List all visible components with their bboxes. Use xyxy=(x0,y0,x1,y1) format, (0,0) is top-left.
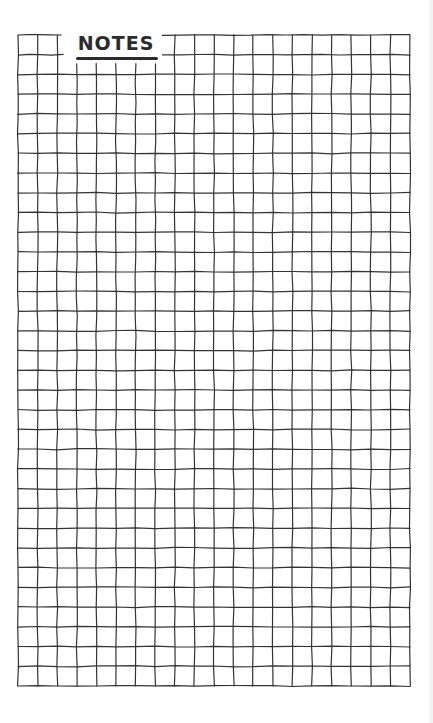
grid-line-vertical xyxy=(135,64,136,686)
hand-drawn-grid xyxy=(0,0,433,723)
grid-line-vertical xyxy=(292,35,293,686)
grid-line-vertical xyxy=(155,64,156,686)
grid-line-horizontal xyxy=(162,35,410,36)
grid-line-vertical xyxy=(18,35,19,686)
grid-line-vertical xyxy=(96,63,97,686)
grid-line-vertical xyxy=(116,64,117,686)
grid-line-vertical xyxy=(253,35,254,686)
grid-notes-page: NOTES xyxy=(0,0,433,723)
page-title: NOTES xyxy=(70,33,162,54)
grid-line-horizontal xyxy=(18,54,63,55)
notes-title-block: NOTES xyxy=(70,33,162,61)
grid-line-vertical xyxy=(312,35,313,686)
grid-line-vertical xyxy=(214,35,215,686)
grid-line-vertical xyxy=(410,35,411,686)
grid-line-vertical xyxy=(194,35,195,686)
grid-line-vertical xyxy=(76,64,77,686)
grid-line-vertical xyxy=(233,35,234,686)
grid-line-vertical xyxy=(351,35,352,686)
grid-line-horizontal xyxy=(162,54,410,55)
title-underline xyxy=(76,57,158,60)
